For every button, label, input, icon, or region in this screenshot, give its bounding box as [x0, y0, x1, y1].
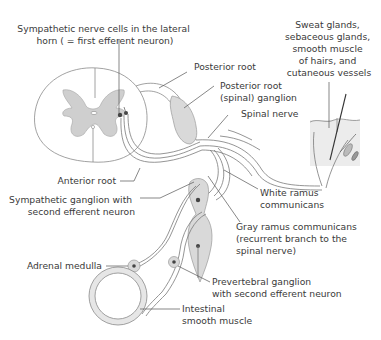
label-white-ramus: White ramus communicans [260, 187, 324, 210]
label-anterior-root: Anterior root [58, 175, 117, 186]
posterior-root [136, 83, 197, 144]
label-intestinal-muscle: Intestinal smooth muscle [182, 303, 252, 326]
spinal-cord-section [34, 68, 147, 162]
sympathetic-trunk [188, 179, 212, 282]
skin-section [310, 94, 360, 188]
label-adrenal-medulla: Adrenal medulla [27, 260, 102, 271]
label-lateral-horn: Sympathetic nerve cells in the lateral h… [17, 23, 192, 46]
label-sympathetic-ganglion: Sympathetic ganglion with second efferen… [9, 194, 135, 217]
label-posterior-root-ganglion: Posterior root (spinal) ganglion [220, 80, 297, 103]
sympathetic-pathway-diagram: Sympathetic nerve cells in the lateral h… [0, 0, 381, 340]
first-efferent-neuron [118, 113, 122, 117]
label-prevertebral-ganglion: Prevertebral ganglion with second effere… [212, 276, 342, 299]
label-posterior-root: Posterior root [194, 61, 256, 72]
label-spinal-nerve: Spinal nerve [241, 108, 299, 119]
second-efferent-neuron [196, 198, 200, 202]
label-skin-targets: Sweat glands, sebaceous glands, smooth m… [285, 19, 373, 78]
spinal-nerve [196, 130, 322, 190]
posterior-root-ganglion [170, 96, 196, 144]
intestine [89, 267, 147, 325]
label-gray-ramus: Gray ramus communicans (recurrent branch… [236, 221, 360, 256]
